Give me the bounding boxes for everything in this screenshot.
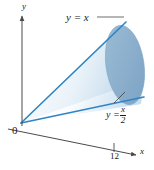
- label-x-axis: x: [140, 147, 144, 156]
- label-y-axis: y: [22, 2, 26, 11]
- label-origin: 0: [12, 125, 18, 136]
- label-x-tick-12: 12: [110, 152, 119, 161]
- label-line-y-equals-x: y = x: [66, 12, 89, 23]
- figure-container: y = x y x 0 12 y =x2: [0, 0, 154, 170]
- fraction-denominator: 2: [120, 116, 127, 125]
- label-lhs-y-equals: y =: [106, 109, 120, 120]
- label-line-y-equals-x-over-2: y =x2: [106, 106, 126, 126]
- fraction-x-over-2: x2: [120, 105, 127, 125]
- fraction-numerator: x: [120, 105, 127, 114]
- cone-figure-svg: [0, 0, 154, 170]
